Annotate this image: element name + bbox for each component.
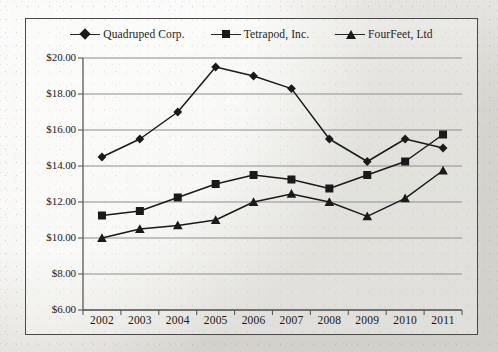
y-axis-label-0: $20.00: [20, 51, 76, 63]
y-axis-label-6: $8.00: [20, 267, 76, 279]
y-axis-label-4: $12.00: [20, 195, 76, 207]
data-point-2-9: [438, 166, 448, 175]
data-point-0-7: [363, 157, 372, 166]
data-point-1-2: [174, 194, 182, 202]
data-point-1-5: [287, 176, 295, 184]
y-axis-label-5: $10.00: [20, 231, 76, 243]
data-point-1-8: [401, 158, 409, 166]
x-axis-label-0: 2002: [82, 314, 122, 326]
y-axis-label-7: $6.00: [20, 303, 76, 315]
data-point-1-9: [439, 131, 447, 139]
data-point-1-7: [363, 171, 371, 179]
y-axis-label-3: $14.00: [20, 159, 76, 171]
y-axis-label-1: $18.00: [20, 87, 76, 99]
series-line-2: [102, 171, 443, 239]
data-point-1-1: [136, 207, 144, 215]
x-axis-label-6: 2008: [309, 314, 349, 326]
data-point-1-3: [212, 180, 220, 188]
plot-area: $20.00$18.00$16.00$14.00$12.00$10.00$8.0…: [0, 0, 498, 352]
series-line-0: [102, 67, 443, 162]
x-axis-label-5: 2007: [271, 314, 311, 326]
x-axis-label-3: 2005: [196, 314, 236, 326]
x-axis-label-1: 2003: [120, 314, 160, 326]
data-point-0-9: [439, 144, 448, 153]
data-point-2-3: [211, 215, 221, 224]
x-axis-label-7: 2009: [347, 314, 387, 326]
x-axis-label-4: 2006: [234, 314, 274, 326]
data-point-0-4: [249, 72, 258, 81]
data-point-1-0: [98, 212, 106, 220]
data-point-2-8: [400, 194, 410, 203]
data-point-1-4: [250, 171, 258, 179]
x-axis-label-9: 2011: [423, 314, 463, 326]
x-axis-label-8: 2010: [385, 314, 425, 326]
data-point-2-7: [362, 212, 372, 221]
x-axis-label-2: 2004: [158, 314, 198, 326]
data-point-0-8: [401, 135, 410, 144]
y-axis-label-2: $16.00: [20, 123, 76, 135]
data-point-1-6: [325, 185, 333, 193]
data-point-2-5: [287, 189, 297, 198]
data-point-0-0: [98, 153, 107, 162]
